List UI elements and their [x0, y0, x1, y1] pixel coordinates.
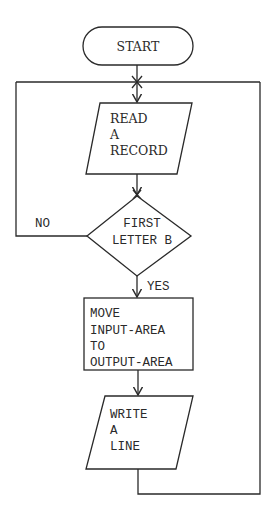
- move-process-node: MOVE INPUT-AREA TO OUTPUT-AREA: [84, 298, 193, 370]
- read-line-2: A: [109, 127, 120, 142]
- flowchart: START READ A RECORD FIRST LETTER B NO YE…: [0, 0, 273, 520]
- move-line-1: MOVE: [90, 307, 120, 321]
- decision-line-1: FIRST: [123, 217, 161, 231]
- yes-label: YES: [147, 280, 170, 294]
- write-line-3: LINE: [110, 440, 140, 454]
- start-terminal: START: [83, 27, 193, 65]
- read-line-1: READ: [110, 111, 148, 126]
- write-line-node: WRITE A LINE: [86, 396, 193, 469]
- move-line-2: INPUT-AREA: [90, 324, 166, 338]
- decision-line-2: LETTER B: [112, 234, 173, 248]
- start-label: START: [117, 39, 160, 54]
- read-line-3: RECORD: [110, 143, 168, 158]
- decision-node: FIRST LETTER B: [87, 196, 191, 276]
- read-record-node: READ A RECORD: [86, 103, 192, 174]
- no-label: NO: [35, 217, 50, 231]
- move-line-3: TO: [90, 340, 105, 354]
- write-line-1: WRITE: [110, 408, 148, 422]
- move-line-4: OUTPUT-AREA: [90, 356, 173, 370]
- no-branch-line: [16, 82, 87, 236]
- write-line-2: A: [110, 424, 118, 438]
